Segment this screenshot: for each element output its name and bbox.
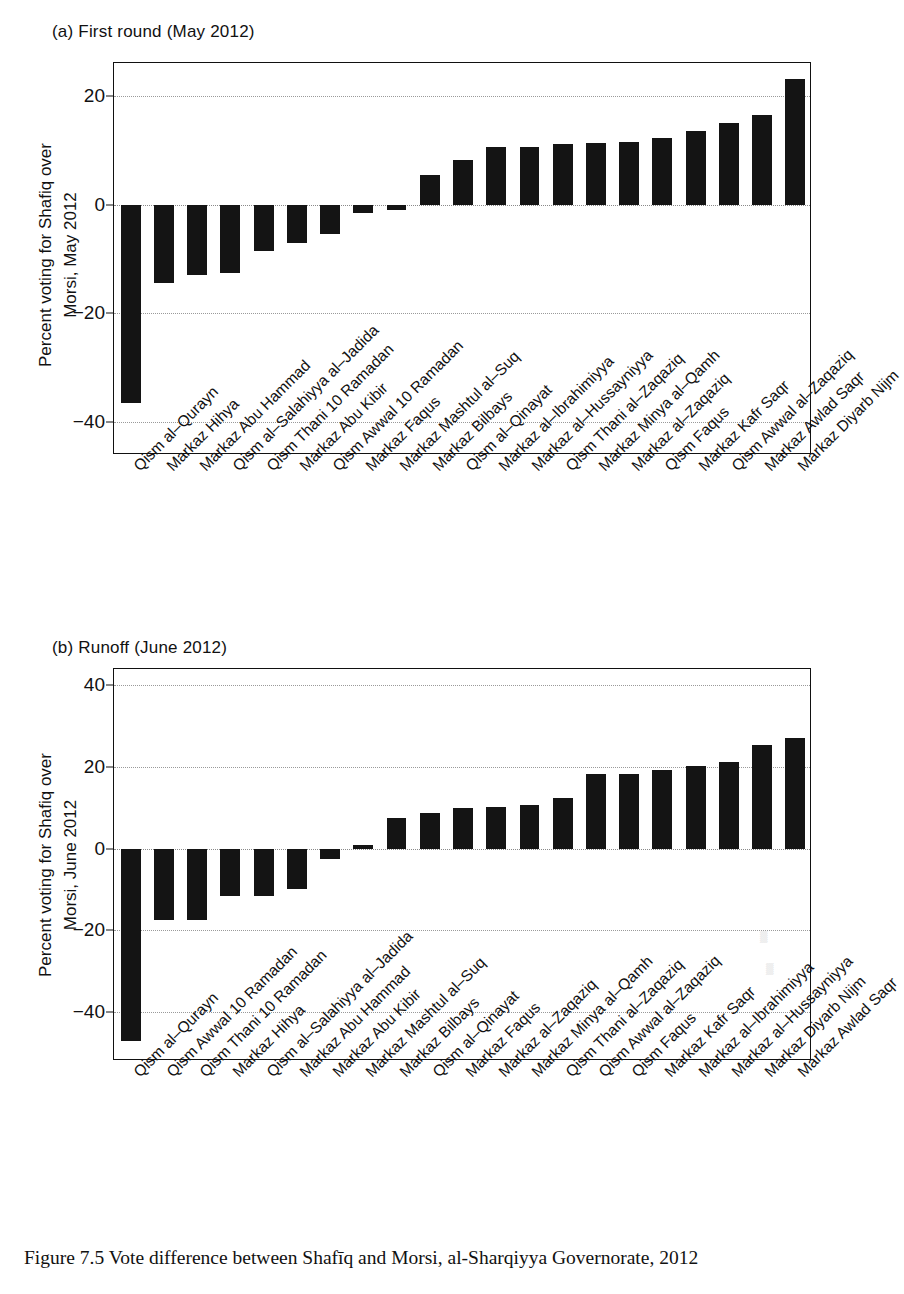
bar [121,849,141,1041]
bar [520,147,540,205]
bar [387,205,407,210]
bar [387,818,407,849]
zero-line [114,849,810,850]
bar [287,849,307,890]
panel-a-y-axis-label-line2: Morsi, May 2012 [59,60,84,450]
y-tick-label: −20 [73,302,114,324]
bar [154,849,174,920]
bar [453,808,473,849]
bar [187,205,207,276]
bar [254,849,274,896]
bar [619,774,639,849]
bar [752,745,772,849]
panel-a-first-round: (a) First round (May 2012) Percent votin… [0,0,862,630]
y-tick-label: 40 [84,674,114,696]
bar [420,175,440,205]
bar [719,123,739,205]
bar [187,849,207,920]
y-tick-label: 0 [94,838,114,860]
bar [652,138,672,205]
y-tick-label: 0 [94,194,114,216]
bar [752,115,772,204]
gridline-40 [114,685,810,686]
panel-b-runoff: (b) Runoff (June 2012) Percent voting fo… [0,620,862,1240]
y-tick-label: −40 [73,1001,114,1023]
bar [686,131,706,205]
page-artifact: ▒ [760,930,768,942]
bar [154,205,174,284]
bar [586,774,606,848]
bar [220,849,240,896]
gridline-20 [114,96,810,97]
bar [719,762,739,849]
bar [520,805,540,848]
panel-a-y-axis-label: Percent voting for Shafiq over Morsi, Ma… [34,60,83,450]
y-tick-label: 20 [84,756,114,778]
bar [287,205,307,243]
bar [220,205,240,273]
bar [553,798,573,849]
gridline--20 [114,930,810,931]
y-tick-label: −20 [73,919,114,941]
zero-line [114,205,810,206]
bar [785,738,805,849]
panel-a-y-axis-label-line1: Percent voting for Shafiq over [34,60,59,450]
bar [353,845,373,849]
bar [121,205,141,404]
panel-b-title: (b) Runoff (June 2012) [52,638,227,658]
bar [453,160,473,205]
y-tick-label: 20 [84,85,114,107]
bar [652,770,672,849]
bar [320,205,340,235]
bar [686,766,706,848]
bar [320,849,340,859]
bar [486,807,506,849]
figure-caption: Figure 7.5 Vote difference between Shafī… [24,1246,854,1270]
panel-a-title: (a) First round (May 2012) [52,22,255,42]
bar [586,143,606,205]
y-tick-label: −40 [73,411,114,433]
panel-b-y-axis-label-line1: Percent voting for Shafiq over [34,670,59,1060]
bar [785,79,805,204]
bar [553,144,573,205]
bar [353,205,373,213]
bar [254,205,274,251]
gridline--20 [114,313,810,314]
page-artifact-2: ▒ [766,962,774,974]
bar [486,147,506,204]
bar [420,813,440,849]
bar [619,142,639,205]
